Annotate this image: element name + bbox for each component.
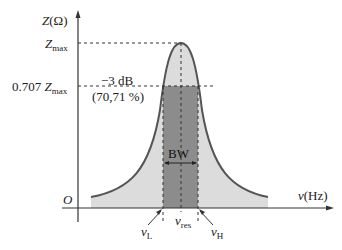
nu-low-label: νL	[141, 225, 152, 238]
db-annotation: −3 dB	[101, 74, 133, 87]
x-axis-label: ν(Hz)	[298, 189, 328, 202]
nu-res-label: νres	[175, 214, 191, 227]
z707-label: 0.707 Zmax	[12, 80, 67, 93]
bandwidth-label: BW	[168, 147, 189, 160]
x-axis-arrow	[326, 206, 334, 211]
zmax-label: Zmax	[45, 37, 68, 50]
percent-annotation: (70,71 %)	[92, 90, 144, 103]
y-axis-arrow	[76, 10, 81, 18]
origin-label: O	[63, 193, 72, 206]
high-pointer-head	[199, 209, 205, 215]
nu-high-label: νH	[211, 225, 223, 238]
low-pointer-head	[156, 209, 162, 215]
y-axis-label: Z(Ω)	[42, 14, 68, 27]
